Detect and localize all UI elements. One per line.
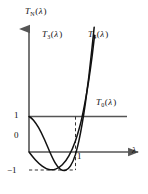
- y-tick-label-1: 1: [14, 111, 19, 120]
- y-tick-label-0: 0: [14, 131, 19, 140]
- curve-label-t3: T3(λ): [42, 30, 62, 40]
- y-axis-title: TN(λ): [25, 7, 47, 17]
- curve-t4: [29, 27, 94, 170]
- paren-close-icon: ): [105, 29, 109, 39]
- lambda-glyph: λ: [54, 29, 59, 39]
- x-tick-label-1: 1: [77, 152, 82, 161]
- chebyshev-polynomials-figure: TN(λ) T3(λ) T4(λ) T0(λ) 1 0 −1 1 λ: [0, 0, 148, 194]
- paren-close-icon: ): [113, 97, 117, 107]
- plot-canvas: [0, 0, 148, 194]
- lambda-glyph: λ: [108, 97, 113, 107]
- y-tick-label-minus-1: −1: [7, 166, 17, 175]
- y-axis-title-subscript: N: [30, 11, 35, 17]
- x-axis-label: λ: [132, 146, 136, 155]
- lambda-glyph: λ: [100, 29, 105, 39]
- paren-close-icon: ): [43, 6, 47, 16]
- curve-label-t4: T4(λ): [88, 30, 108, 40]
- curve-label-t0: T0(λ): [96, 98, 116, 108]
- paren-close-icon: ): [59, 29, 63, 39]
